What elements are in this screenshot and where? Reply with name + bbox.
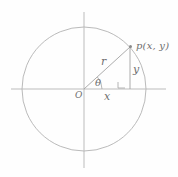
unit-circle-figure: r θ O x y p(x, y) (0, 0, 178, 177)
point-marker (129, 45, 132, 48)
origin-label: O (75, 91, 82, 100)
angle-label: θ (95, 78, 101, 88)
radius-segment (84, 47, 130, 89)
figure-canvas (0, 0, 178, 177)
radius-label: r (101, 56, 106, 67)
point-label: p(x, y) (136, 41, 169, 51)
right-angle-marker (118, 82, 125, 88)
x-leg-label: x (104, 91, 110, 102)
y-leg-label: y (133, 64, 139, 75)
